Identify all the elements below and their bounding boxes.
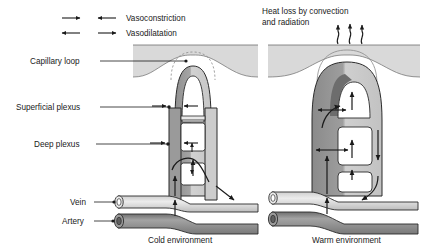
legend-label-vasoconstriction: Vasoconstriction <box>126 14 186 23</box>
panel-caption-cold: Cold environment <box>148 236 213 245</box>
label-text-capillary-loop: Capillary loop <box>30 57 80 66</box>
legend-label-vasodilatation: Vasodilatation <box>126 29 177 38</box>
panel-caption-warm: Warm environment <box>312 236 382 245</box>
plexus-chambers-warm <box>338 82 372 192</box>
figure-root: Vasoconstriction Vasodilatation Heat los… <box>0 0 427 252</box>
label-text-vein: Vein <box>70 198 86 207</box>
heat-loss-label-line1: Heat loss by convection <box>262 7 349 16</box>
heat-loss-label-line2: and radiation <box>262 18 310 27</box>
label-text-superficial-plexus: Superficial plexus <box>16 103 80 112</box>
label-text-deep-plexus: Deep plexus <box>34 140 80 149</box>
label-text-artery: Artery <box>62 217 85 226</box>
thermoregulation-diagram: Vasoconstriction Vasodilatation Heat los… <box>0 0 427 252</box>
